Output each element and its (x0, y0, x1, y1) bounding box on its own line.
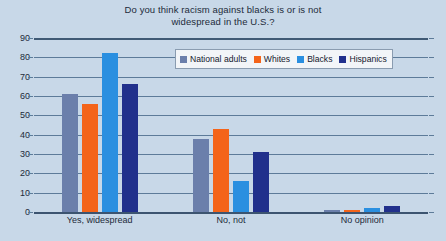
y-axis-tick (28, 38, 33, 39)
bar-whites-0 (82, 104, 98, 212)
y-axis-tick (28, 115, 33, 116)
chart-legend: National adultsWhitesBlacksHispanics (175, 49, 393, 69)
chart-title-line-2: widespread in the U.S.? (0, 16, 446, 28)
y-axis-label: 0 (4, 207, 30, 217)
y-axis-tick (28, 212, 33, 213)
y-axis-tick (429, 193, 434, 194)
x-axis-label: No, not (216, 215, 245, 225)
y-axis-label: 80 (4, 52, 30, 62)
y-axis-label: 10 (4, 188, 30, 198)
legend-item-hispanics[interactable]: Hispanics (339, 54, 386, 64)
legend-label: Blacks (307, 54, 332, 64)
bar-hispanics-2 (384, 206, 400, 212)
y-axis-tick (28, 154, 33, 155)
gridline (34, 38, 428, 40)
x-axis-label: No opinion (341, 215, 384, 225)
y-axis-label: 30 (4, 149, 30, 159)
bar-national-adults-0 (62, 94, 78, 212)
legend-swatch-icon (254, 56, 261, 63)
y-axis-label: 50 (4, 110, 30, 120)
legend-label: Hispanics (349, 54, 386, 64)
y-axis-label: 20 (4, 168, 30, 178)
bar-blacks-0 (102, 53, 118, 212)
y-axis-label: 70 (4, 72, 30, 82)
y-axis-tick (429, 57, 434, 58)
y-axis-tick (28, 135, 33, 136)
legend-label: National adults (190, 54, 247, 64)
y-axis-tick (429, 77, 434, 78)
y-axis-tick (28, 77, 33, 78)
y-axis-tick (429, 154, 434, 155)
legend-item-blacks[interactable]: Blacks (297, 54, 332, 64)
y-axis-label: 60 (4, 91, 30, 101)
y-axis-label: 40 (4, 130, 30, 140)
y-axis-tick (28, 173, 33, 174)
bar-hispanics-0 (122, 84, 138, 212)
gridline (34, 212, 428, 214)
bar-blacks-2 (364, 208, 380, 212)
legend-item-whites[interactable]: Whites (254, 54, 290, 64)
legend-swatch-icon (180, 56, 187, 63)
y-axis-tick (429, 115, 434, 116)
chart-title: Do you think racism against blacks is or… (0, 4, 446, 28)
x-axis-label: Yes, widespread (67, 215, 133, 225)
bar-national-adults-2 (324, 210, 340, 212)
gridline (34, 96, 428, 97)
legend-item-national-adults[interactable]: National adults (180, 54, 247, 64)
legend-label: Whites (264, 54, 290, 64)
y-axis-label: 90 (4, 33, 30, 43)
y-axis-tick (429, 135, 434, 136)
y-axis-tick (429, 38, 434, 39)
chart-title-line-1: Do you think racism against blacks is or… (0, 4, 446, 16)
chart-container: Do you think racism against blacks is or… (0, 0, 446, 241)
y-axis-tick (429, 173, 434, 174)
bar-national-adults-1 (193, 139, 209, 212)
bar-whites-2 (344, 210, 360, 212)
y-axis: 0102030405060708090 (0, 38, 30, 212)
bar-whites-1 (213, 129, 229, 212)
bar-hispanics-1 (253, 152, 269, 212)
y-axis-tick (429, 96, 434, 97)
y-axis-tick (28, 57, 33, 58)
y-axis-tick (429, 212, 434, 213)
y-axis-tick (28, 96, 33, 97)
gridline (34, 77, 428, 78)
legend-swatch-icon (297, 56, 304, 63)
bar-blacks-1 (233, 181, 249, 212)
legend-swatch-icon (339, 56, 346, 63)
y-axis-tick (28, 193, 33, 194)
